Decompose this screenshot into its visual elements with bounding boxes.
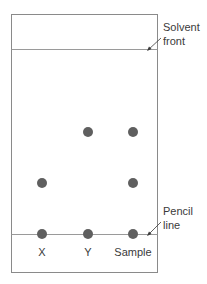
spot-y-developed (83, 127, 93, 137)
solvent-front-label-line1: Solvent (163, 21, 200, 33)
solvent-front-label-line2: front (163, 35, 185, 47)
lane-label-sample: Sample (114, 246, 151, 258)
spot-sample-baseline (128, 229, 138, 239)
chromatogram-diagram: Solvent front Pencil line X Y Sample (0, 0, 207, 284)
spot-sample-upper (128, 127, 138, 137)
pencil-line-label-line1: Pencil (163, 205, 193, 217)
pencil-line-label-line2: line (163, 219, 180, 231)
lane-label-x: X (38, 246, 46, 258)
spot-x-developed (37, 178, 47, 188)
spot-x-baseline (37, 229, 47, 239)
spot-sample-lower (128, 178, 138, 188)
lane-label-y: Y (84, 246, 92, 258)
spot-y-baseline (83, 229, 93, 239)
